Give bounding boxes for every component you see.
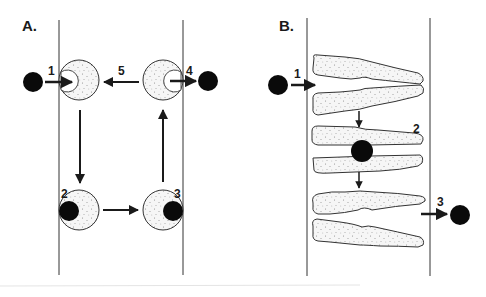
step-label-1: 1 bbox=[48, 64, 55, 78]
molecule-ball-outside-right bbox=[450, 205, 470, 225]
panel-a-label: A. bbox=[22, 17, 37, 34]
step-label-4: 4 bbox=[186, 64, 193, 78]
channel-plate-1-top bbox=[313, 55, 423, 84]
vesicle-top-left bbox=[59, 60, 99, 100]
step-label-2: 2 bbox=[413, 122, 420, 136]
molecule-ball-in-channel bbox=[351, 140, 373, 162]
panel-a: A. 1 2 bbox=[22, 17, 218, 275]
molecule-ball-outside-left bbox=[23, 72, 43, 92]
step-label-3: 3 bbox=[437, 195, 444, 209]
step-label-3: 3 bbox=[174, 187, 181, 201]
molecule-ball-outside-right bbox=[198, 71, 218, 91]
molecule-ball bbox=[59, 201, 79, 221]
step-label-5: 5 bbox=[118, 64, 125, 78]
panel-b: B. 1 2 3 bbox=[268, 17, 470, 276]
molecule-ball-outside-left bbox=[268, 75, 288, 95]
scan-artifact bbox=[0, 285, 360, 286]
channel-plate-3-bottom bbox=[313, 219, 424, 247]
step-label-2: 2 bbox=[61, 187, 68, 201]
channel-plate-3-top bbox=[313, 191, 426, 214]
diagram-canvas: A. 1 2 bbox=[0, 0, 486, 297]
channel-plate-1-bottom bbox=[313, 85, 424, 115]
panel-b-label: B. bbox=[279, 17, 294, 34]
molecule-ball bbox=[163, 201, 183, 221]
step-label-1: 1 bbox=[294, 67, 301, 81]
